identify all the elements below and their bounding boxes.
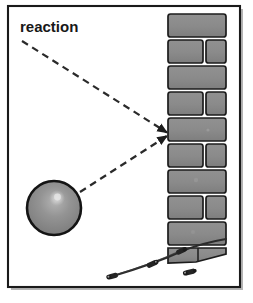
brick-row-2 [168,66,226,89]
brick-row-0 [168,14,226,37]
diagram-canvas [0,0,253,303]
brick-row-3 [168,92,226,115]
ball [27,181,81,235]
reaction-force-diagram: reaction [0,0,253,303]
reaction-label: reaction [20,19,78,35]
brick-row-7 [168,196,226,219]
brick-row-1 [168,40,226,63]
brick-row-5 [168,144,226,167]
brick-row-4 [168,118,226,141]
brick-wall [168,14,226,263]
